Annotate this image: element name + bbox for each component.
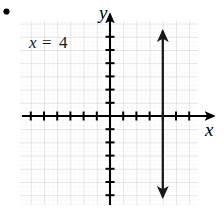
y-axis-label: y (97, 2, 108, 23)
coordinate-plane-graph: y x x = 4 (0, 0, 224, 213)
equation-annotation: x = 4 (28, 33, 68, 52)
equation-variable: x (28, 33, 37, 52)
list-bullet-icon (3, 8, 9, 14)
figure-canvas: y x x = 4 (0, 0, 224, 213)
equation-operator: = (42, 33, 52, 52)
equation-value: 4 (59, 33, 68, 52)
x-axis-label: x (204, 119, 214, 140)
